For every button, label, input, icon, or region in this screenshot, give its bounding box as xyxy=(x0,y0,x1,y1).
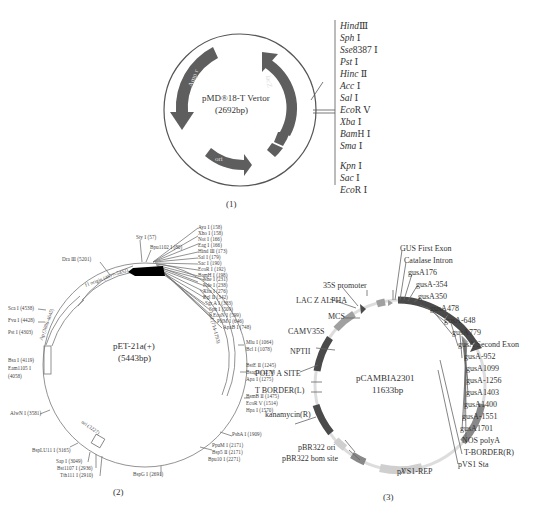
label-nptii: NPTII xyxy=(290,348,310,356)
label-mcs: MCS xyxy=(328,313,345,321)
label-kanamycin-r: kanamycin(R) xyxy=(265,411,311,419)
label-t-border-l: T BORDER(L) xyxy=(255,387,304,395)
label-list-right: GUS First Exon Catalase Intron gusA176 g… xyxy=(400,245,461,473)
label-pbr322-ori: pBR322 ori xyxy=(298,444,336,452)
caption-3: (3) xyxy=(383,493,394,502)
label-pbr322-bom-site: pBR322 bom site xyxy=(282,455,338,463)
label-camv35s: CAMV35S xyxy=(288,328,324,336)
label-lac-z-alpha: LAC Z ALPHA xyxy=(296,297,347,305)
35s-promoter-arc xyxy=(377,302,385,304)
plasmid-3-size: 11633bp xyxy=(372,386,403,395)
nptii-arc xyxy=(317,338,330,371)
label-pvs1-sta: pVS1 Sta xyxy=(458,461,519,473)
kanamycin-arc xyxy=(316,405,331,433)
figure-3-pcambia2301: pCAMBIA2301 11633bp 35S promoter LAC Z A… xyxy=(0,0,535,509)
label-poly-a-site: POLY A SITE xyxy=(255,370,301,378)
label-35s-promoter: 35S promoter xyxy=(323,282,367,290)
